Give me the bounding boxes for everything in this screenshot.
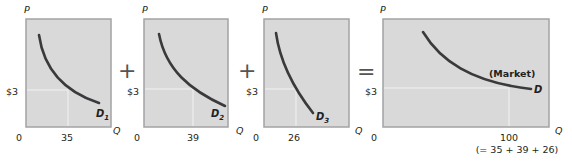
y-axis-label: P [24,4,30,15]
panel-d2: P Q 0 $3 39 D2 [127,4,244,143]
x-axis-label: Q [555,125,563,136]
qty-sum-note: (= 35 + 39 + 26) [476,144,559,155]
qty-tick: 26 [288,132,300,143]
price-tick: $3 [6,86,18,97]
panel-d3: P Q 0 $3 26 D3 [246,4,363,143]
origin-label: 0 [16,132,22,143]
panel-market: P Q 0 $3 100 (= 35 + 39 + 26) (Market) D [365,4,563,155]
origin-label: 0 [134,132,140,143]
y-axis-label: P [142,4,148,15]
plus-operator: + [118,58,136,83]
qty-tick: 39 [187,132,199,143]
market-tag: (Market) [489,68,535,79]
qty-tick: 35 [61,132,73,143]
demand-summation-figure: P Q 0 $3 35 D1 + P Q 0 $3 39 D2 + P Q 0 … [0,0,572,163]
price-tick: $3 [365,86,377,97]
qty-tick: 100 [500,132,518,143]
plus-operator: + [238,58,256,83]
price-tick: $3 [246,86,258,97]
origin-label: 0 [253,132,259,143]
origin-label: 0 [371,132,377,143]
x-axis-label: Q [113,125,121,136]
y-axis-label: P [380,4,386,15]
y-axis-label: P [262,4,268,15]
equals-operator: = [357,59,375,84]
panel-d1: P Q 0 $3 35 D1 [6,4,121,143]
x-axis-label: Q [236,125,244,136]
curve-label: D [534,84,542,95]
price-tick: $3 [127,86,139,97]
x-axis-label: Q [355,125,363,136]
